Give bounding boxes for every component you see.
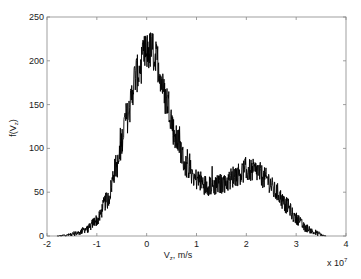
x-tick-label: 3 [294,239,299,249]
density-chart: -2-101234 050100150200250 Vz, m/s f(Vz) … [0,0,361,279]
y-tick-label: 200 [29,56,44,66]
y-tick-label: 0 [39,231,44,241]
y-axis-label: f(Vz) [8,119,19,137]
y-tick-label: 250 [29,12,44,22]
y-tick-label: 150 [29,100,44,110]
plot-area [47,17,346,236]
x-tick-label: 0 [144,239,149,249]
x-tick-label: 4 [343,239,348,249]
y-tick-label: 100 [29,143,44,153]
x-tick-label: 2 [244,239,249,249]
x-tick-label: -1 [93,239,101,249]
x-tick-label: -2 [43,239,51,249]
y-tick-label: 50 [34,187,44,197]
x-tick-label: 1 [194,239,199,249]
x-axis-label: Vz, m/s [164,250,193,261]
x-axis-exponent: x 107 [327,257,348,268]
